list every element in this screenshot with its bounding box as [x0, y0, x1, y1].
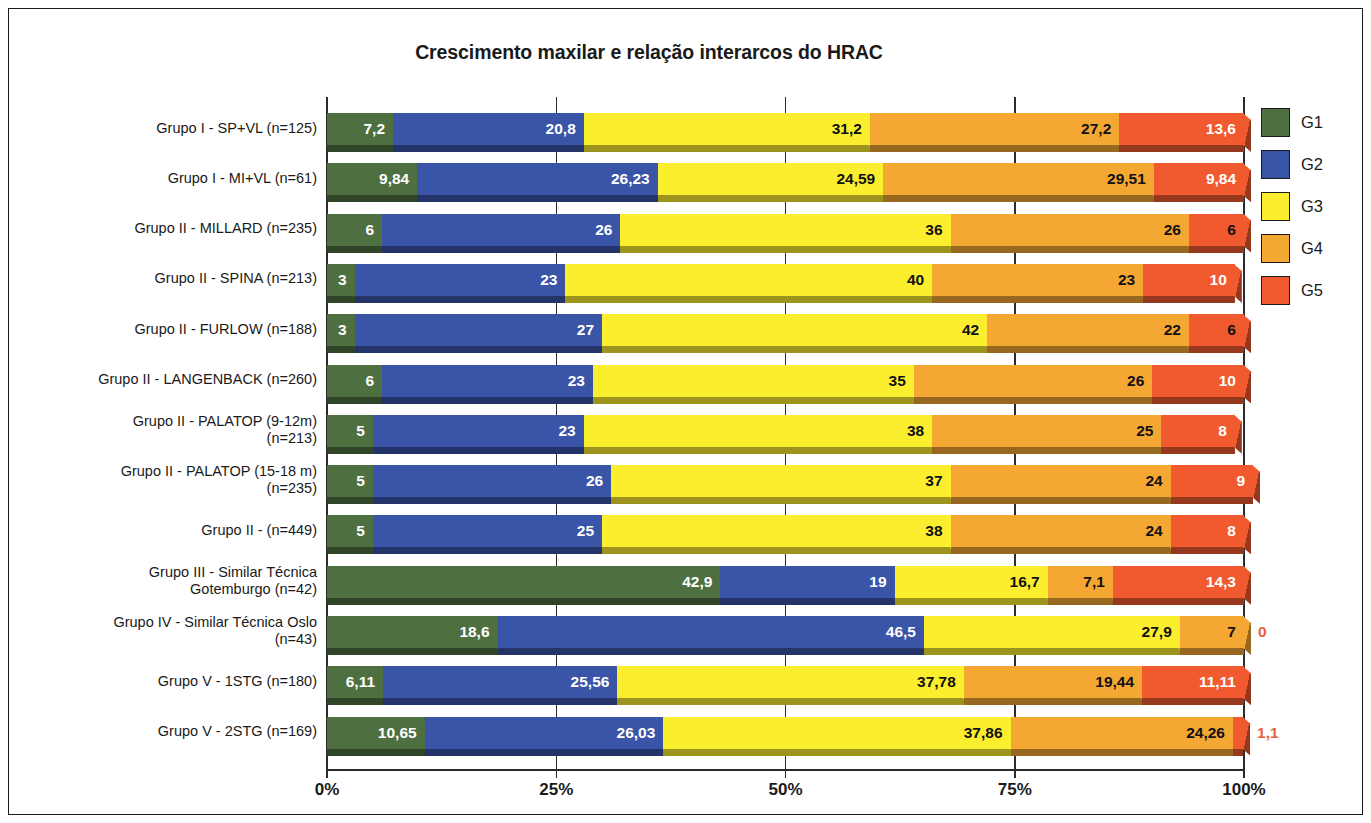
legend-item-g4[interactable]: G4 [1261, 227, 1356, 269]
bar-segment-g4[interactable]: 26 [951, 214, 1189, 246]
bar-segment-g3[interactable]: 38 [602, 515, 950, 547]
bar-row[interactable]: 10,6526,0337,8624,261,1 [327, 717, 1244, 757]
bar-segment-face [382, 214, 620, 246]
bar-segment-g5[interactable]: 9,84 [1154, 163, 1244, 195]
bar-row[interactable]: 18,646,527,970 [327, 616, 1244, 656]
bar-segment-g3[interactable]: 37,86 [663, 717, 1010, 749]
bar-segment-g3[interactable]: 16,7 [895, 566, 1048, 598]
bar-row[interactable]: 52338258 [327, 415, 1244, 455]
bar-row[interactable]: 42,91916,77,114,3 [327, 566, 1244, 606]
bar-segment-g2[interactable]: 26,23 [417, 163, 658, 195]
bar-segment-shadow [883, 195, 1154, 202]
bar-segment-g5[interactable] [1233, 717, 1243, 749]
bar-segment-g2[interactable]: 25,56 [383, 666, 617, 698]
bar-row[interactable]: 7,220,831,227,213,6 [327, 113, 1244, 153]
bar-segment-g3[interactable]: 37 [611, 465, 950, 497]
bar-segment-g4[interactable]: 29,51 [883, 163, 1154, 195]
bar-segment-g3[interactable]: 40 [565, 264, 932, 296]
bar-row[interactable]: 6,1125,5637,7819,4411,11 [327, 666, 1244, 706]
bar-segment-g3[interactable]: 31,2 [584, 113, 870, 145]
bar-segment-g3[interactable]: 38 [584, 415, 932, 447]
bar-segment-g2[interactable]: 27 [355, 314, 603, 346]
bar-segment-face [584, 415, 932, 447]
bar-segment-g2[interactable]: 23 [382, 365, 593, 397]
legend-item-g2[interactable]: G2 [1261, 143, 1356, 185]
bar-segment-g2[interactable]: 25 [373, 515, 602, 547]
bar-segment-g1[interactable]: 3 [327, 314, 355, 346]
bar-segment-g4[interactable]: 22 [987, 314, 1189, 346]
bar-segment-shadow [327, 497, 373, 504]
legend-item-g3[interactable]: G3 [1261, 185, 1356, 227]
bar-segment-g5[interactable]: 6 [1189, 314, 1244, 346]
bar-row[interactable]: 62636266 [327, 214, 1244, 254]
bar-segment-shadow [1171, 547, 1244, 554]
bar-segment-g4[interactable]: 24,26 [1011, 717, 1233, 749]
bar-segment-g1[interactable]: 5 [327, 465, 373, 497]
legend-item-g1[interactable]: G1 [1261, 101, 1356, 143]
bar-segment-g5[interactable]: 9 [1171, 465, 1254, 497]
bar-row[interactable]: 323402310 [327, 264, 1244, 304]
y-axis-category-label: Grupo II - (n=449) [17, 522, 317, 539]
bar-segment-label: 27,2 [1081, 113, 1111, 145]
bar-segment-g4[interactable]: 7 [1180, 616, 1244, 648]
bar-segment-label: 9 [1237, 465, 1246, 497]
bar-segment-g2[interactable]: 26 [382, 214, 620, 246]
bar-segment-g5[interactable]: 13,6 [1119, 113, 1244, 145]
bar-segment-g1[interactable]: 6 [327, 214, 382, 246]
bar-segment-g4[interactable]: 19,44 [964, 666, 1142, 698]
bar-segment-g4[interactable]: 25 [932, 415, 1161, 447]
bar-row[interactable]: 52637249 [327, 465, 1244, 505]
bar-segment-g5[interactable]: 8 [1161, 415, 1234, 447]
bar-segment-g4[interactable]: 24 [951, 515, 1171, 547]
legend-item-g5[interactable]: G5 [1261, 269, 1356, 311]
bar-segment-g1[interactable]: 7,2 [327, 113, 393, 145]
bar-segment-g2[interactable]: 19 [720, 566, 894, 598]
bar-segment-g3[interactable]: 35 [593, 365, 914, 397]
bar-row[interactable]: 52538248 [327, 515, 1244, 555]
bar-segment-g1[interactable]: 5 [327, 515, 373, 547]
bar-segment-bevel [1242, 717, 1250, 756]
bar-segment-shadow [382, 397, 593, 404]
bar-segment-g1[interactable]: 9,84 [327, 163, 417, 195]
bar-row[interactable]: 32742226 [327, 314, 1244, 354]
bar-segment-label-outside: 1,1 [1257, 717, 1279, 749]
bar-segment-g5[interactable]: 14,3 [1113, 566, 1244, 598]
bar-segment-g3[interactable]: 36 [620, 214, 950, 246]
bar-row[interactable]: 9,8426,2324,5929,519,84 [327, 163, 1244, 203]
bar-segment-g3[interactable]: 24,59 [658, 163, 883, 195]
bar-segment-g2[interactable]: 26,03 [425, 717, 664, 749]
bar-segment-g5[interactable]: 8 [1171, 515, 1244, 547]
bar-segment-label: 26 [586, 465, 603, 497]
bar-segment-shadow [1152, 397, 1244, 404]
bar-segment-g5[interactable]: 6 [1189, 214, 1244, 246]
bar-segment-g3[interactable]: 27,9 [924, 616, 1180, 648]
bar-segment-g3[interactable]: 37,78 [617, 666, 963, 698]
bar-segment-g2[interactable]: 46,5 [498, 616, 924, 648]
bar-segment-g3[interactable]: 42 [602, 314, 987, 346]
bar-segment-g4[interactable]: 7,1 [1048, 566, 1113, 598]
bar-segment-g4[interactable]: 27,2 [870, 113, 1119, 145]
bar-segment-g5[interactable]: 11,11 [1142, 666, 1244, 698]
bar-segment-g4[interactable]: 26 [914, 365, 1152, 397]
bar-segment-g1[interactable]: 5 [327, 415, 373, 447]
bar-segment-g1[interactable]: 6,11 [327, 666, 383, 698]
bar-segment-shadow [327, 598, 720, 605]
bar-segment-g1[interactable]: 18,6 [327, 616, 498, 648]
bar-segment-g1[interactable]: 42,9 [327, 566, 720, 598]
bar-segment-g2[interactable]: 23 [373, 415, 584, 447]
bar-segment-shadow [327, 547, 373, 554]
bar-segment-label: 27,9 [1142, 616, 1172, 648]
bar-segment-g4[interactable]: 23 [932, 264, 1143, 296]
bar-segment-g5[interactable]: 10 [1143, 264, 1235, 296]
bar-segment-label: 26 [1127, 365, 1144, 397]
chart-frame: Crescimento maxilar e relação interarcos… [8, 8, 1363, 815]
bar-segment-g1[interactable]: 6 [327, 365, 382, 397]
bar-segment-g4[interactable]: 24 [951, 465, 1171, 497]
bar-segment-g1[interactable]: 3 [327, 264, 355, 296]
bar-segment-g2[interactable]: 20,8 [393, 113, 584, 145]
bar-row[interactable]: 623352610 [327, 365, 1244, 405]
bar-segment-g5[interactable]: 10 [1152, 365, 1244, 397]
bar-segment-g1[interactable]: 10,65 [327, 717, 425, 749]
bar-segment-g2[interactable]: 23 [355, 264, 566, 296]
bar-segment-g2[interactable]: 26 [373, 465, 611, 497]
